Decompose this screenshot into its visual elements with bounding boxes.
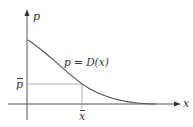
y-axis-label: p (33, 11, 40, 22)
curve-label: p = D(x) (64, 57, 109, 68)
x-axis-arrowhead (174, 102, 181, 107)
y-axis-arrowhead (25, 9, 30, 16)
p-bar-label: p (16, 79, 23, 90)
x-bar-label: x (79, 111, 85, 122)
x-axis-label: x (183, 98, 189, 109)
demand-curve (28, 40, 156, 104)
